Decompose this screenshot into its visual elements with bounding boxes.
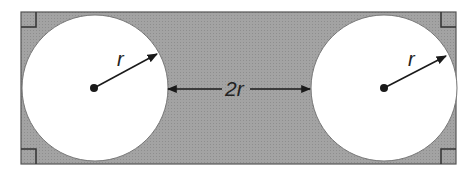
- gap-label: 2r: [224, 77, 245, 100]
- diagram-canvas: r r 2r: [0, 0, 464, 182]
